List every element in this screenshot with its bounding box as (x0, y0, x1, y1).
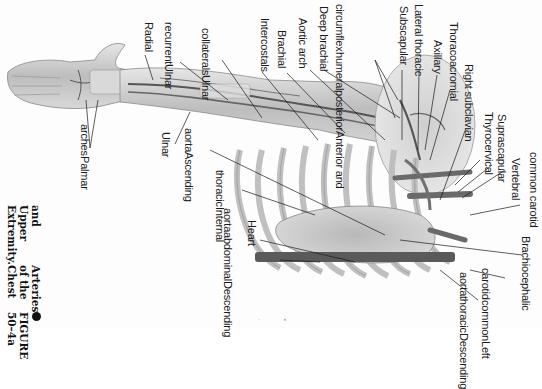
label-subscapular: Subscapular (398, 6, 409, 65)
figure-title-line-1: Arteries of the Chest (6, 265, 42, 312)
label-descending-abdominal-aorta: Descendingabdominalaorta (222, 208, 233, 337)
label-thyrocervical: Thyrocervical (483, 112, 494, 175)
label-deep-brachial: Deep brachial (318, 6, 329, 71)
label-ulnar: Ulnar (160, 132, 171, 157)
label-intercostals: Intercostals (259, 18, 270, 72)
scan-artifacts: · ▪ (258, 316, 286, 323)
figure-number: FIGURE 50–4a (6, 312, 30, 359)
label-brachiocephalic: Brachiocephalic (520, 236, 531, 311)
figure-caption: FIGURE 50–4a Arteries of the Chest and U… (6, 205, 42, 359)
label-palmar-arches: Palmararches (79, 124, 90, 189)
label-thoracoacromial: Thoracoacromial (448, 22, 459, 101)
label-aortic-arch: Aortic arch (297, 18, 308, 68)
label-lateral-thoracic: Lateral thoracic (413, 4, 424, 76)
figure-title-line-2: and Upper Extremity. (6, 205, 42, 265)
label-ulnar-recurrent: Ulnarrecurrent (163, 22, 174, 90)
label-brachial: Brachial (276, 30, 287, 68)
bullet-icon (32, 312, 41, 321)
label-left-common-carotid: Leftcommoncarotid (480, 268, 491, 358)
label-heart: Heart (246, 220, 257, 246)
label-humeral-circumflex: Anterior andposteriorhumeralcircumflex (334, 4, 345, 188)
hand (7, 43, 128, 108)
label-axillary: Axillary (432, 40, 443, 74)
label-ascending-aorta: Ascendingaorta (183, 128, 194, 202)
label-descending-thoracic-aorta: Descendingthoracicaorta (458, 272, 469, 389)
label-ulnar-collaterals: Ulnarcollaterals (200, 28, 211, 101)
label-common-carotid: common carotid (528, 152, 539, 227)
label-right-subclavian: Right subclavian (463, 64, 474, 142)
label-suprascapular: Suprascapular (496, 114, 507, 182)
label-radial: Radial (143, 22, 154, 52)
label-vertebral: Vertebral (510, 158, 521, 200)
